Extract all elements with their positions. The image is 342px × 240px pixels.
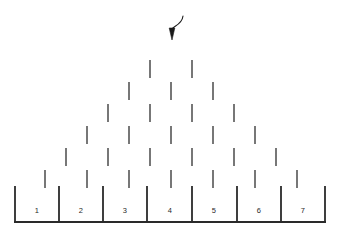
bin-label-7: 7 [301,206,305,215]
peg-row-5 [66,148,276,166]
peg-array [45,60,297,188]
peg-row-2 [129,82,213,100]
bin-label-3: 3 [123,206,127,215]
peg-row-4 [87,126,255,144]
peg-row-3 [108,104,234,122]
bin-label-1: 1 [35,206,39,215]
peg-row-6 [45,170,297,188]
arrow-shaft [172,16,183,29]
entry-arrow [169,16,183,40]
arrow-head [169,28,175,40]
bin-label-2: 2 [79,206,83,215]
board-canvas [0,0,342,240]
bin-structure [14,186,326,222]
galton-board-figure: 1234567 [0,0,342,240]
bin-label-4: 4 [168,206,172,215]
peg-row-1 [150,60,192,78]
bin-label-6: 6 [257,206,261,215]
bin-label-5: 5 [212,206,216,215]
